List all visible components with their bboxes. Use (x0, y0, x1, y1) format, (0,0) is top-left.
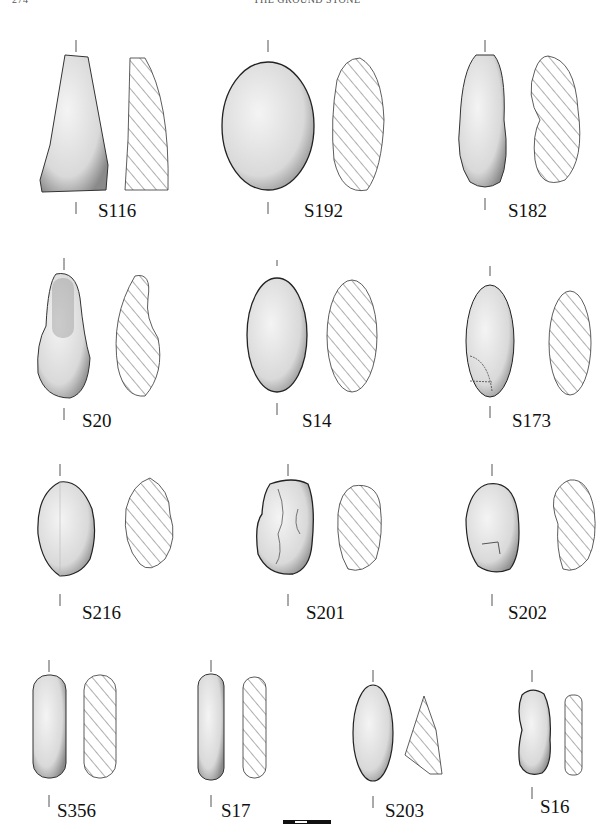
scale-bar (283, 820, 331, 824)
stone-view (519, 690, 551, 774)
section-view (553, 480, 595, 570)
section-view (405, 696, 442, 774)
artifact-label: S356 (57, 800, 96, 822)
stone-view (222, 62, 314, 190)
artifact-s356: S356 (30, 660, 160, 820)
artifact-s182: S182 (440, 40, 600, 220)
section-view (327, 280, 377, 392)
artifact-s116: S116 (30, 40, 180, 220)
section-view (125, 478, 173, 568)
section-view (243, 677, 266, 778)
artifact-s16: S16 (512, 670, 612, 820)
stone-view (198, 674, 224, 780)
section-view (338, 485, 382, 570)
artifact-label: S14 (302, 410, 332, 432)
stone-view (466, 285, 514, 397)
artifact-label: S203 (385, 800, 424, 822)
artifact-s201: S201 (248, 464, 408, 634)
artifact-s173: S173 (460, 266, 610, 446)
stone-view (33, 675, 66, 778)
artifact-label: S20 (82, 410, 112, 432)
artifact-label: S192 (304, 200, 343, 222)
stone-view (466, 484, 519, 572)
artifact-label: S16 (540, 796, 570, 818)
artifact-label: S182 (508, 200, 547, 222)
stone-view (40, 55, 108, 192)
stone-view (353, 685, 393, 781)
stone-view (38, 482, 95, 576)
artifact-label: S202 (508, 602, 547, 624)
section-view (531, 56, 580, 183)
artifact-s202: S202 (458, 464, 608, 634)
stone-view (257, 480, 314, 574)
section-view (333, 58, 384, 191)
artifact-s192: S192 (222, 40, 402, 220)
groove-mark (52, 278, 74, 338)
section-view (116, 275, 160, 396)
artifact-s14: S14 (240, 260, 400, 440)
artifact-s20: S20 (30, 258, 180, 438)
section-view (565, 695, 582, 775)
scale-bar-outline (283, 820, 331, 824)
artifact-s17: S17 (196, 660, 316, 820)
section-view (549, 291, 591, 395)
artifact-s216: S216 (30, 464, 180, 634)
artifact-label: S216 (82, 602, 121, 624)
section-view (84, 675, 116, 778)
section-view (125, 58, 168, 190)
stone-view (459, 55, 507, 187)
artifact-s203: S203 (350, 670, 480, 820)
stone-view (247, 278, 307, 392)
artifact-label: S173 (512, 410, 551, 432)
artifact-label: S201 (306, 602, 345, 624)
artifact-label: S17 (221, 800, 251, 822)
running-title: THE GROUND STONE (0, 0, 614, 5)
artifact-label: S116 (98, 200, 136, 222)
